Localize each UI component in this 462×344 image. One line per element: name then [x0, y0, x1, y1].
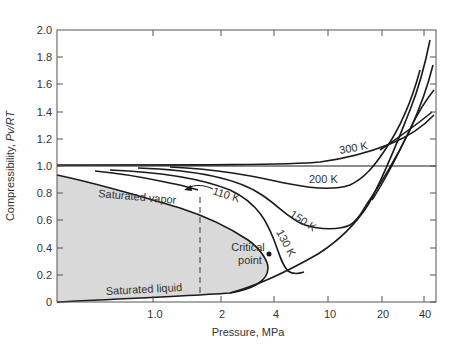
svg-text:0.2: 0.2: [37, 269, 52, 281]
label-110k: 110 K: [211, 184, 242, 204]
isotherm-200k: [170, 70, 420, 188]
x-tick-labels: 1.0 2 4 10 20 40: [147, 308, 431, 320]
compressibility-chart: 0 0.2 0.4 0.6 0.8 1.0 1.2 1.4 1.6 1.8 2.…: [0, 0, 462, 344]
label-200k: 200 K: [309, 173, 338, 185]
label-critical: Critical: [231, 241, 265, 253]
svg-text:2: 2: [219, 308, 225, 320]
svg-text:1.0: 1.0: [37, 160, 52, 172]
svg-text:1.0: 1.0: [147, 308, 162, 320]
label-point: point: [238, 254, 262, 266]
svg-text:40: 40: [419, 308, 431, 320]
svg-text:1.8: 1.8: [37, 51, 52, 63]
svg-text:1.6: 1.6: [37, 78, 52, 90]
label-150k: 150 K: [288, 208, 319, 234]
svg-text:0.8: 0.8: [37, 187, 52, 199]
isotherm-150k-high: [372, 90, 434, 200]
svg-text:20: 20: [377, 308, 389, 320]
svg-text:1.2: 1.2: [37, 133, 52, 145]
isotherm-300k: [57, 115, 434, 165]
critical-point-marker: [267, 252, 272, 257]
y-tick-labels: 0 0.2 0.4 0.6 0.8 1.0 1.2 1.4 1.6 1.8 2.…: [37, 24, 52, 308]
svg-text:1.4: 1.4: [37, 106, 52, 118]
svg-text:0: 0: [46, 296, 52, 308]
svg-text:2.0: 2.0: [37, 24, 52, 36]
svg-text:0.6: 0.6: [37, 214, 52, 226]
label-130k: 130 K: [274, 227, 298, 259]
svg-text:0.4: 0.4: [37, 242, 52, 254]
isotherm-110k-high: [380, 112, 432, 150]
svg-text:10: 10: [324, 308, 336, 320]
x-axis-title: Pressure, MPa: [212, 326, 286, 338]
svg-text:4: 4: [273, 308, 279, 320]
y-axis-title: Compressibility, Pv/RT: [4, 110, 16, 222]
